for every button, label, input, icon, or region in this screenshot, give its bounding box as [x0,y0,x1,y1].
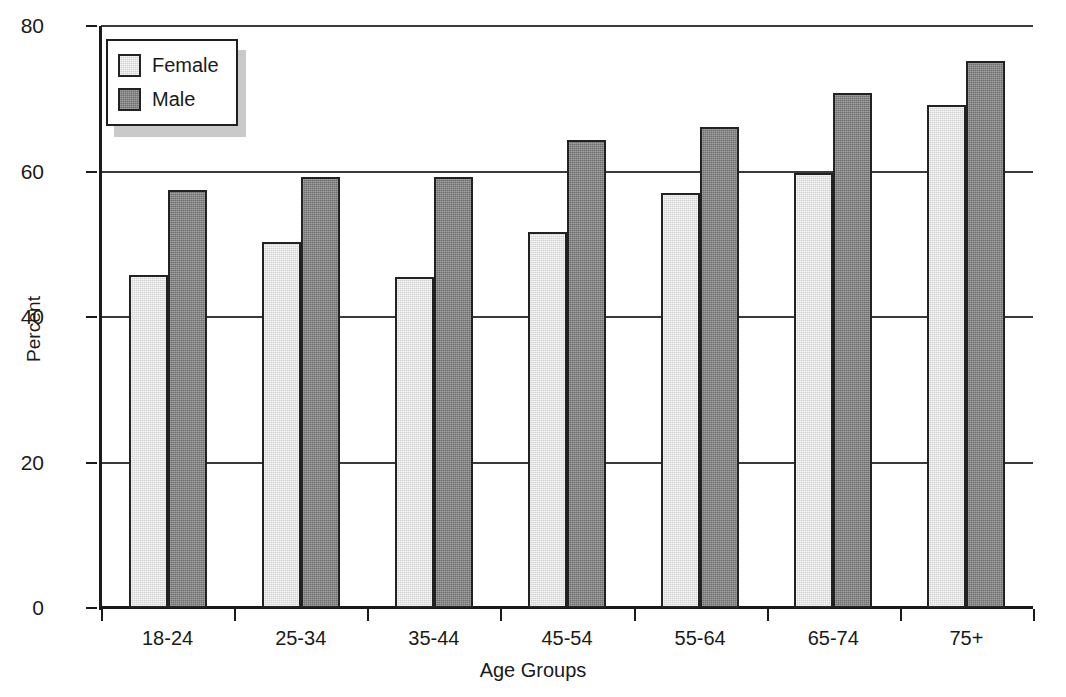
bar-male-75+ [966,61,1005,608]
legend-swatch-male [118,88,141,111]
bar-group [634,26,767,608]
y-tick-label: 0 [0,597,44,618]
y-tick-mark [86,25,97,27]
x-tick-mark [634,609,636,621]
y-tick-mark [86,171,97,173]
y-tick-mark [86,462,97,464]
x-tick-mark [900,609,902,621]
legend-item-female: Female [118,48,236,82]
legend: FemaleMale [106,39,238,126]
x-tick-mark [101,609,103,621]
bar-male-65-74 [833,93,872,608]
bar-male-55-64 [700,127,739,608]
y-tick-mark [86,607,97,609]
x-tick-mark [234,609,236,621]
bar-female-25-34 [262,242,301,608]
bar-female-55-64 [661,193,700,608]
bar-female-65-74 [794,173,833,608]
bar-group [767,26,900,608]
bar-female-45-54 [528,232,567,608]
bar-female-18-24 [129,275,168,608]
legend-label-female: Female [152,55,219,75]
bar-male-18-24 [168,190,207,608]
x-tick-mark [367,609,369,621]
x-tick-mark [500,609,502,621]
bar-male-25-34 [301,177,340,608]
bar-group [500,26,633,608]
x-axis-title: Age Groups [0,659,1066,682]
bar-chart: 020406080 Percent 18-2425-3435-4445-5455… [0,0,1066,697]
y-tick-mark [86,316,97,318]
x-tick-mark [1033,609,1035,621]
legend-label-male: Male [152,89,195,109]
bar-group [234,26,367,608]
bar-group [900,26,1033,608]
y-axis-title: Percent [23,269,45,389]
bar-female-75+ [927,105,966,608]
legend-item-male: Male [118,82,236,116]
legend-swatch-female [118,54,141,77]
bar-female-35-44 [395,277,434,608]
x-tick-label-75+: 75+ [886,627,1046,649]
x-tick-mark [767,609,769,621]
bar-male-45-54 [567,140,606,609]
y-tick-label: 60 [0,161,44,182]
bar-male-35-44 [434,177,473,608]
y-tick-label: 20 [0,452,44,473]
y-tick-label: 80 [0,15,44,36]
bar-group [367,26,500,608]
